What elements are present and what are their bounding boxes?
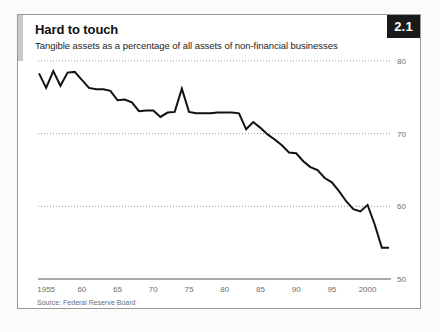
y-axis-tick-label: 60 — [397, 202, 406, 211]
x-axis-tick-label: 90 — [292, 285, 301, 294]
x-axis-tick-label: 65 — [113, 285, 122, 294]
figure-panel: 2.1 Hard to touch Tangible assets as a p… — [17, 14, 421, 309]
line-chart — [18, 15, 422, 310]
plot-area: 80706050195560657075808590952000 — [18, 15, 422, 310]
y-axis-tick-label: 70 — [397, 129, 406, 138]
x-axis-tick-label: 1955 — [37, 285, 55, 294]
x-axis-tick-label: 60 — [77, 285, 86, 294]
x-axis-tick-label: 70 — [149, 285, 158, 294]
x-axis-tick-label: 80 — [220, 285, 229, 294]
x-axis-tick-label: 95 — [327, 285, 336, 294]
chart-source: Source: Federal Reserve Board — [37, 299, 135, 306]
y-axis-tick-label: 80 — [397, 57, 406, 66]
data-series-line — [39, 71, 389, 248]
y-axis-tick-label: 50 — [397, 275, 406, 284]
x-axis-tick-label: 75 — [185, 285, 194, 294]
x-axis-tick-label: 2000 — [359, 285, 377, 294]
x-axis-tick-label: 85 — [256, 285, 265, 294]
